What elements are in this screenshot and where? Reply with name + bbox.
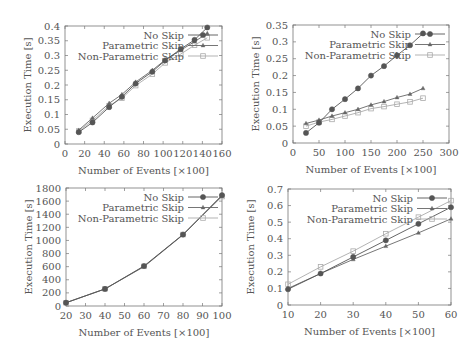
x-axis-label: Number of Events [×100] — [306, 164, 437, 175]
y-tick-label: 0.7 — [267, 184, 283, 195]
y-axis-label: Execution Time [s] — [250, 36, 261, 131]
marker-filled-circle-icon — [63, 300, 68, 305]
marker-filled-circle-icon — [205, 25, 210, 30]
y-tick-label: 0.4 — [267, 233, 283, 244]
x-tick-label: 30 — [79, 310, 92, 321]
y-tick-label: 0.2 — [44, 80, 60, 91]
y-tick-label: 0.15 — [38, 94, 60, 105]
y-tick-label: 600 — [42, 261, 61, 272]
legend-label: No Skip — [371, 29, 411, 40]
marker-filled-circle-icon — [383, 238, 388, 243]
marker-filled-circle-icon — [381, 64, 386, 69]
marker-filled-circle-icon — [285, 287, 290, 292]
y-tick-label: 0 — [54, 139, 60, 150]
marker-triangle-icon — [421, 86, 425, 90]
marker-filled-circle-icon — [429, 195, 434, 200]
y-tick-label: 1800 — [36, 183, 61, 194]
x-tick-label: 80 — [177, 310, 190, 321]
marker-filled-circle-icon — [316, 120, 321, 125]
marker-filled-circle-icon — [150, 69, 155, 74]
y-tick-label: 0.05 — [266, 121, 288, 132]
marker-triangle-icon — [205, 31, 209, 35]
y-tick-label: 0 — [55, 301, 61, 312]
figure-four-panel-charts: 02040608010012014016000.050.10.150.20.25… — [0, 0, 473, 353]
marker-triangle-icon — [449, 217, 453, 221]
x-tick-label: 100 — [154, 148, 173, 159]
marker-filled-circle-icon — [180, 232, 185, 237]
x-tick-label: 60 — [138, 310, 151, 321]
legend-label: No Skip — [144, 30, 184, 41]
legend-label: Non-Parametric Skip — [305, 50, 411, 61]
x-tick-label: 40 — [99, 310, 112, 321]
x-tick-label: 50 — [412, 309, 425, 320]
y-tick-label: 0.25 — [266, 53, 288, 64]
chart-panel-4: 10203040506000.10.20.30.40.50.60.7Number… — [245, 184, 457, 338]
y-tick-label: 0.4 — [44, 21, 60, 32]
legend-label: Non-Parametric Skip — [78, 51, 184, 62]
y-tick-label: 800 — [42, 248, 61, 259]
x-tick-label: 80 — [137, 148, 150, 159]
marker-filled-circle-icon — [303, 130, 308, 135]
marker-filled-circle-icon — [141, 263, 146, 268]
y-tick-label: 0.5 — [267, 217, 283, 228]
y-tick-label: 1600 — [36, 196, 61, 207]
y-tick-label: 0.2 — [267, 266, 283, 277]
x-tick-label: 90 — [196, 310, 209, 321]
marker-filled-circle-icon — [119, 94, 124, 99]
marker-filled-circle-icon — [200, 32, 205, 37]
y-tick-label: 0.3 — [267, 250, 283, 261]
marker-filled-circle-icon — [107, 105, 112, 110]
y-tick-label: 400 — [42, 274, 61, 285]
y-tick-label: 0 — [277, 300, 283, 311]
x-tick-label: 40 — [379, 309, 392, 320]
y-tick-label: 0.15 — [266, 87, 288, 98]
x-tick-label: 250 — [413, 147, 432, 158]
x-tick-label: 100 — [335, 147, 354, 158]
marker-filled-circle-icon — [192, 37, 197, 42]
y-tick-label: 0.25 — [38, 65, 60, 76]
y-tick-label: 0.35 — [266, 20, 288, 31]
x-tick-label: 60 — [118, 148, 131, 159]
marker-filled-circle-icon — [420, 31, 425, 36]
x-tick-label: 300 — [439, 147, 458, 158]
marker-filled-circle-icon — [102, 286, 107, 291]
x-tick-label: 100 — [212, 310, 231, 321]
series-line-parametric-skip — [288, 219, 451, 289]
x-tick-label: 150 — [361, 147, 380, 158]
legend-label: No Skip — [373, 193, 413, 204]
marker-triangle-icon — [107, 101, 111, 105]
x-tick-label: 30 — [347, 309, 360, 320]
marker-filled-circle-icon — [427, 31, 432, 36]
x-axis-label: Number of Events [×100] — [304, 326, 435, 337]
y-tick-label: 0.3 — [44, 50, 60, 61]
x-tick-label: 0 — [290, 147, 296, 158]
x-axis-label: Number of Events [×100] — [79, 327, 210, 338]
chart-panel-1: 02040608010012014016000.050.10.150.20.25… — [22, 21, 232, 177]
y-axis-label: Execution Time [s] — [245, 199, 256, 294]
x-tick-label: 20 — [60, 310, 73, 321]
chart-panel-2: 05010015020025030000.050.10.150.20.250.3… — [250, 20, 459, 176]
y-tick-label: 0.1 — [44, 109, 60, 120]
x-tick-label: 60 — [445, 309, 458, 320]
x-tick-label: 40 — [98, 148, 111, 159]
legend-label: Parametric Skip — [102, 202, 184, 213]
y-axis-label: Execution Time [s] — [23, 199, 34, 294]
y-tick-label: 0.1 — [267, 283, 283, 294]
legend-label: Non-Parametric Skip — [78, 213, 184, 224]
x-axis-label: Number of Events [×100] — [78, 165, 209, 176]
chart-panel-3: 2030405060708090100020040060080010001200… — [23, 183, 232, 339]
x-tick-label: 140 — [193, 148, 212, 159]
marker-filled-circle-icon — [219, 193, 224, 198]
marker-filled-circle-icon — [76, 130, 81, 135]
x-tick-label: 20 — [78, 148, 91, 159]
x-tick-label: 200 — [387, 147, 406, 158]
y-tick-label: 0.2 — [272, 70, 288, 81]
marker-filled-circle-icon — [448, 205, 453, 210]
legend-label: Parametric Skip — [331, 203, 413, 214]
marker-filled-circle-icon — [351, 254, 356, 259]
y-tick-label: 0 — [282, 138, 288, 149]
marker-filled-circle-icon — [342, 97, 347, 102]
y-tick-label: 1200 — [36, 222, 61, 233]
y-tick-label: 0.6 — [267, 200, 283, 211]
y-tick-label: 0.1 — [272, 104, 288, 115]
